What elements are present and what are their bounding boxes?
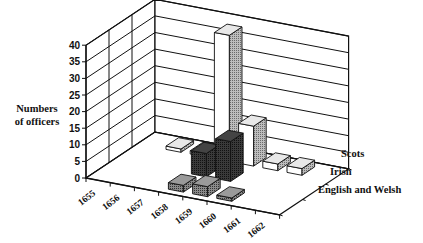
bar <box>216 130 244 181</box>
x-tick-label: 1659 <box>173 206 194 226</box>
y-tick-label: 15 <box>69 123 81 134</box>
y-axis-label-line2: of officers <box>8 115 66 128</box>
x-tick-label: 1656 <box>100 192 121 212</box>
bar <box>191 142 219 177</box>
y-tick-label: 10 <box>69 139 81 150</box>
y-tick-label: 5 <box>74 156 80 167</box>
y-axis-label: Numbers of officers <box>8 102 66 128</box>
y-tick-label: 0 <box>74 173 80 184</box>
x-tick-label: 1661 <box>221 215 242 235</box>
y-tick-label: 40 <box>69 40 81 51</box>
x-tick-label: 1660 <box>197 211 218 231</box>
x-tick-label: 1655 <box>76 188 97 208</box>
y-tick-label: 30 <box>69 73 81 84</box>
y-tick-label: 20 <box>69 106 81 117</box>
series-label-english-and-welsh: English and Welsh <box>318 184 401 195</box>
y-tick-label: 35 <box>69 56 81 67</box>
y-axis-label-line1: Numbers <box>8 102 66 115</box>
y-tick-label: 25 <box>69 90 81 101</box>
x-tick-label: 1662 <box>246 220 267 240</box>
x-tick-label: 1657 <box>125 197 146 217</box>
series-label-scots: Scots <box>341 148 364 159</box>
series-label-irish: Irish <box>330 166 352 177</box>
x-tick-label: 1658 <box>149 202 170 222</box>
